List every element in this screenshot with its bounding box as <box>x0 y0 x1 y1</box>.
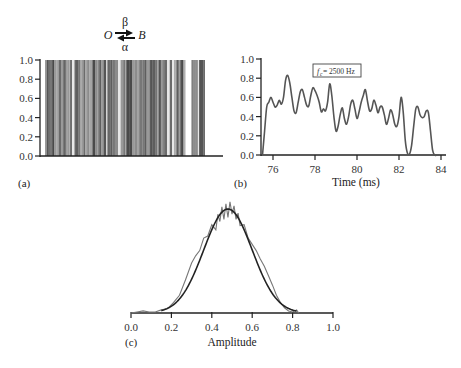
panel-a-bar <box>118 60 121 156</box>
panel-a-bar <box>59 60 62 156</box>
panel-b-y-tick-label: 0.4 <box>240 111 254 123</box>
panel-c-x-tick-label: 0.6 <box>245 321 259 333</box>
panel-a-bar <box>56 60 59 156</box>
panel-a-bar <box>155 60 157 156</box>
panel-c-xlabel: Amplitude <box>207 336 256 349</box>
panel-a-bar <box>108 60 109 156</box>
panel-a-bars <box>45 60 205 156</box>
panel-a-bar <box>151 60 153 156</box>
panel-b-y-tick-label: 1.0 <box>240 53 254 65</box>
panel-a-bar <box>127 60 129 156</box>
panel-a-bar <box>201 60 203 156</box>
forward-rate-label: β <box>122 15 128 29</box>
panel-a-bar <box>137 60 138 156</box>
panel-a-bar <box>93 60 96 156</box>
panel-a-bar <box>135 60 138 156</box>
panel-a-bar <box>47 60 49 156</box>
panel-a-y-tick-label: 0.2 <box>19 131 33 143</box>
panel-c-x-tick-label: 0.4 <box>205 321 219 333</box>
panel-b-y-tick-label: 0.6 <box>240 91 254 103</box>
panel-a-bar <box>148 60 150 156</box>
panel-a-bar <box>72 60 75 156</box>
state-o-label: O <box>104 28 113 42</box>
panel-b-y-tick-label: 0.2 <box>240 130 254 142</box>
panel-a-bar <box>111 60 113 156</box>
panel-c: 0.00.20.40.60.81.0 Amplitude (c) <box>124 202 340 349</box>
panel-a-bar <box>170 60 172 156</box>
panel-b-x-tick-label: 78 <box>310 163 322 175</box>
panel-a-bar <box>65 60 67 156</box>
panel-b-y-tick-label: 0.8 <box>240 72 254 84</box>
panel-a-bar <box>138 60 140 156</box>
panel-a-bar <box>195 60 198 156</box>
panel-a-bar <box>63 60 65 156</box>
panel-c-x-tick-label: 0.8 <box>286 321 300 333</box>
panel-a-bar <box>74 60 76 156</box>
panel-a-bar <box>106 60 107 156</box>
panel-a-bar <box>140 60 143 156</box>
panel-a-bar <box>101 60 104 156</box>
panel-a-bar <box>121 60 124 156</box>
panel-a-bar <box>112 60 115 156</box>
annotation-value: = 2500 Hz <box>323 67 355 76</box>
panel-b-x-tick-label: 82 <box>394 163 405 175</box>
panel-a-bar <box>159 60 161 156</box>
panel-a-bar <box>61 60 63 156</box>
panel-c-axes: 0.00.20.40.60.81.0 <box>124 312 340 333</box>
panel-a-bar <box>68 60 70 156</box>
panel-a-bar <box>198 60 199 156</box>
panel-a-bar <box>115 60 118 156</box>
panel-a-bar <box>54 60 56 156</box>
panel-a-bar <box>142 60 144 156</box>
panel-a-label: (a) <box>18 177 31 190</box>
panel-a-bar <box>91 60 93 156</box>
panel-a-bar <box>89 60 91 156</box>
panel-a-y-tick-label: 0.8 <box>19 73 33 85</box>
panel-c-x-tick-label: 0.0 <box>124 321 138 333</box>
panel-a-bar <box>95 60 98 156</box>
panel-a-y-tick-label: 1.0 <box>19 54 33 66</box>
panel-b-x-tick-label: 76 <box>268 163 280 175</box>
panel-c-label: (c) <box>125 336 138 349</box>
panel-a-bar <box>179 60 180 156</box>
panel-a-y-tick-label: 0.4 <box>19 112 33 124</box>
panel-a-bar <box>66 60 68 156</box>
cutoff-annotation: f c = 2500 Hz <box>313 64 361 77</box>
panel-b-y-tick-label: 0.0 <box>240 149 254 161</box>
panel-a-bar <box>100 60 102 156</box>
panel-a: 0.00.20.40.60.81.0 (a) <box>18 54 223 190</box>
panel-a-bar <box>109 60 111 156</box>
panel-b-x-tick-label: 84 <box>436 163 448 175</box>
panel-c-x-tick-label: 0.2 <box>165 321 179 333</box>
panel-a-bar <box>123 60 125 156</box>
panel-b-trace-line <box>263 75 439 155</box>
panel-a-bar <box>104 60 107 156</box>
backward-rate-label: α <box>122 40 129 54</box>
panel-a-bar <box>182 60 184 156</box>
state-b-label: B <box>138 28 146 42</box>
panel-a-bar <box>144 60 146 156</box>
panel-a-bar <box>180 60 182 156</box>
panel-a-bar <box>132 60 135 156</box>
panel-a-bar <box>83 60 85 156</box>
panel-a-bar <box>52 60 54 156</box>
panel-c-x-tick-label: 1.0 <box>326 321 340 333</box>
panel-a-bar <box>164 60 167 156</box>
panel-a-bar <box>82 60 84 156</box>
panel-a-bar <box>130 60 132 156</box>
panel-a-bar <box>76 60 79 156</box>
panel-b-label: (b) <box>234 177 247 190</box>
panel-a-bar <box>48 60 50 156</box>
panel-a-y-tick-label: 0.6 <box>19 92 33 104</box>
panel-a-bar <box>87 60 89 156</box>
panel-a-bar <box>184 60 185 156</box>
panel-a-bar <box>172 60 175 156</box>
figure: β O B α 0.00.20.40.60.81.0 (a) 0.00.20.4… <box>0 0 461 368</box>
kinetic-scheme: β O B α <box>104 15 147 54</box>
panel-a-bar <box>176 60 178 156</box>
panel-b: 0.00.20.40.60.81.07678808284 f c = 2500 … <box>234 53 447 190</box>
panel-a-bar <box>85 60 87 156</box>
panel-a-bar <box>70 60 72 156</box>
panel-a-bar <box>203 60 205 156</box>
panel-a-bar <box>79 60 81 156</box>
